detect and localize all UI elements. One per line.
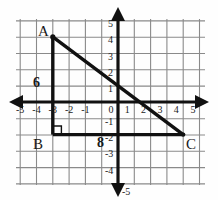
arrow-right-icon <box>195 95 209 109</box>
vertex-dot-c <box>181 132 185 136</box>
x-tick-label: 2 <box>141 104 146 115</box>
x-tick-label: -3 <box>49 104 57 115</box>
y-tick-label: 5 <box>108 18 113 29</box>
y-tick-label: -2 <box>105 132 113 143</box>
y-tick-label: -1 <box>105 116 113 127</box>
side-label-vertical: 6 <box>33 75 40 90</box>
vertex-label-a: A <box>38 23 49 39</box>
vertex-label-b: B <box>33 136 43 152</box>
x-tick-label: 5 <box>191 104 196 115</box>
x-tick-label: -5 <box>16 104 24 115</box>
vertex-dot-a <box>50 34 55 39</box>
y-tick-label: 3 <box>108 51 113 62</box>
y-tick-label: -4 <box>105 165 113 176</box>
x-tick-label: 0 <box>109 104 114 115</box>
y-tick-label: -5 <box>122 186 130 197</box>
x-tick-label: -4 <box>32 104 40 115</box>
y-tick-label: 2 <box>108 67 113 78</box>
arrow-up-icon <box>111 7 125 21</box>
y-tick-label: 4 <box>108 34 113 45</box>
y-tick-label: 1 <box>108 83 113 94</box>
coordinate-plane-figure: A B C 6 8 -5 -4 -3 -2 -1 0 1 2 3 4 5 5 4… <box>0 0 218 200</box>
vertex-label-c: C <box>186 136 196 152</box>
x-tick-label: 1 <box>125 104 130 115</box>
x-tick-label: 3 <box>157 104 162 115</box>
side-label-horizontal: 8 <box>97 135 104 150</box>
x-tick-label: -2 <box>65 104 73 115</box>
coordinate-graph-svg: A B C 6 8 -5 -4 -3 -2 -1 0 1 2 3 4 5 5 4… <box>0 0 218 200</box>
y-tick-label: -3 <box>105 148 113 159</box>
x-axis-tick-labels: -5 -4 -3 -2 -1 0 1 2 3 4 5 <box>16 104 196 115</box>
x-tick-label: 4 <box>174 104 179 115</box>
x-tick-label: -1 <box>81 104 89 115</box>
